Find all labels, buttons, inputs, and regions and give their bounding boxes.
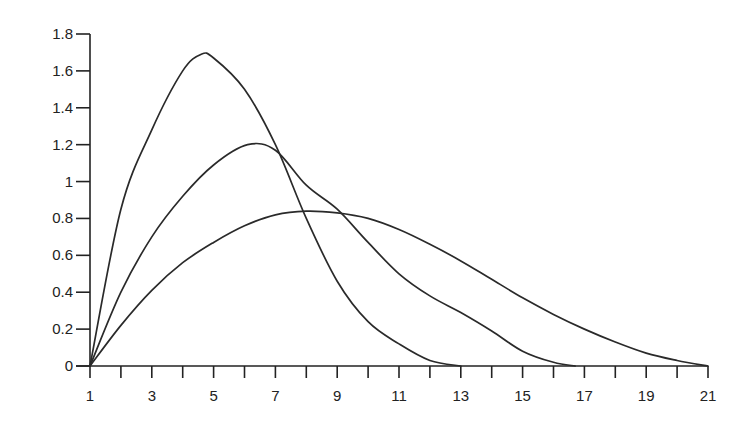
- series-curve-3: [90, 211, 708, 366]
- y-tick-label: 0.4: [52, 283, 73, 300]
- y-tick-label: 0: [65, 357, 73, 374]
- y-tick-label: 1.4: [52, 99, 73, 116]
- y-tick-label: 0.2: [52, 320, 73, 337]
- y-tick-label: 1.8: [52, 25, 73, 42]
- y-tick-label: 1.2: [52, 136, 73, 153]
- x-tick-label: 17: [576, 387, 593, 404]
- x-tick-label: 11: [391, 387, 407, 404]
- line-chart: 00.20.40.60.811.21.41.61.8 1357911131517…: [0, 0, 753, 431]
- plot-area: [90, 53, 708, 366]
- y-tick-label: 0.8: [52, 209, 73, 226]
- y-tick-label: 1: [65, 173, 73, 190]
- x-tick-label: 21: [700, 387, 717, 404]
- y-tick-label: 1.6: [52, 62, 73, 79]
- x-tick-label: 3: [148, 387, 156, 404]
- x-tick-label: 15: [514, 387, 531, 404]
- x-tick-label: 9: [333, 387, 341, 404]
- y-axis: 00.20.40.60.811.21.41.61.8: [52, 25, 90, 374]
- x-axis: 13579111315171921: [76, 366, 716, 404]
- x-tick-label: 5: [209, 387, 217, 404]
- x-tick-label: 7: [271, 387, 279, 404]
- y-tick-label: 0.6: [52, 246, 73, 263]
- series-curve-2: [90, 143, 575, 366]
- x-tick-label: 13: [452, 387, 469, 404]
- x-tick-label: 19: [638, 387, 655, 404]
- series-curve-1: [90, 53, 461, 366]
- x-tick-label: 1: [86, 387, 94, 404]
